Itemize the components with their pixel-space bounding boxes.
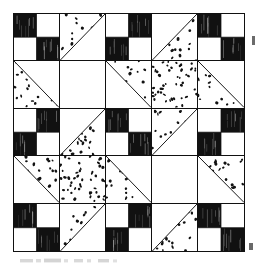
quilt-unit-four-patch-light-first xyxy=(106,14,151,60)
quilt-cell-r3-c4 xyxy=(152,109,198,156)
quilt-cell-r4-c2 xyxy=(60,156,106,203)
quilt-unit-four-patch-dark-first xyxy=(198,204,244,251)
quilt-cell-r4-c5 xyxy=(198,156,244,203)
quilt-unit-hst-print-lower-left xyxy=(198,61,244,107)
quilt-cell-r4-c3 xyxy=(106,156,152,203)
scan-edge-mark-bottom xyxy=(249,243,253,250)
quilt-unit-four-patch-dark-first xyxy=(14,14,59,60)
quilt-cell-r3-c1 xyxy=(14,109,60,156)
quilt-unit-hst-print-lower-left xyxy=(14,61,59,107)
quilt-cell-r5-c2 xyxy=(60,204,106,251)
quilt-cell-r1-c2 xyxy=(60,14,106,61)
quilt-unit-hst-print-upper-right xyxy=(14,156,59,202)
quilt-unit-plain-square xyxy=(60,61,105,107)
quilt-unit-hst-print-lower-right xyxy=(60,109,105,155)
quilt-unit-hst-print-lower-right xyxy=(152,14,197,60)
quilt-unit-hst-print-upper-left xyxy=(60,14,105,60)
quilt-unit-four-patch-light-first xyxy=(198,109,244,155)
quilt-cell-r5-c5 xyxy=(198,204,244,251)
quilt-cell-r2-c5 xyxy=(198,61,244,108)
quilt-cell-r3-c3 xyxy=(106,109,152,156)
quilt-block-figure xyxy=(0,0,258,269)
quilt-cell-r1-c4 xyxy=(152,14,198,61)
quilt-cell-r5-c3 xyxy=(106,204,152,251)
quilt-cell-r5-c4 xyxy=(152,204,198,251)
quilt-block-grid xyxy=(13,13,245,252)
quilt-cell-r3-c2 xyxy=(60,109,106,156)
quilt-cell-r4-c1 xyxy=(14,156,60,203)
quilt-cell-r2-c4 xyxy=(152,61,198,108)
quilt-unit-four-patch-light-first xyxy=(106,204,151,251)
quilt-unit-four-patch-dark-first xyxy=(106,109,151,155)
quilt-cell-r5-c1 xyxy=(14,204,60,251)
scan-edge-mark-top xyxy=(252,36,255,45)
quilt-unit-hst-print-upper-left xyxy=(152,109,197,155)
quilt-unit-four-patch-dark-first xyxy=(14,204,59,251)
quilt-cell-r1-c5 xyxy=(198,14,244,61)
quilt-unit-hst-print-lower-right xyxy=(152,204,197,251)
quilt-cell-r2-c1 xyxy=(14,61,60,108)
quilt-cell-r2-c3 xyxy=(106,61,152,108)
caption-smudge xyxy=(18,258,138,264)
quilt-unit-four-patch-dark-first xyxy=(198,14,244,60)
quilt-unit-print-square xyxy=(60,156,105,202)
quilt-cell-r2-c2 xyxy=(60,61,106,108)
quilt-unit-hst-print-upper-right xyxy=(198,156,244,202)
quilt-cell-r1-c3 xyxy=(106,14,152,61)
quilt-cell-r3-c5 xyxy=(198,109,244,156)
quilt-unit-hst-print-lower-left xyxy=(106,156,151,202)
quilt-cell-r1-c1 xyxy=(14,14,60,61)
quilt-unit-hst-print-upper-right xyxy=(106,61,151,107)
quilt-unit-four-patch-light-first xyxy=(14,109,59,155)
quilt-cell-r4-c4 xyxy=(152,156,198,203)
quilt-unit-hst-print-upper-left xyxy=(60,204,105,251)
quilt-unit-plain-square xyxy=(152,156,197,202)
quilt-unit-print-square xyxy=(152,61,197,107)
